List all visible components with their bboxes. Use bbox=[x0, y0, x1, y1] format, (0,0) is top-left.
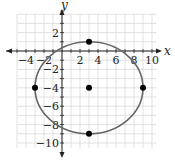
point-center bbox=[86, 85, 92, 91]
x-tick-label: 10 bbox=[145, 54, 159, 67]
y-axis-label: y bbox=[60, 0, 68, 12]
x-tick-label: 2 bbox=[77, 54, 84, 67]
x-tick-label: −4 bbox=[18, 54, 34, 67]
axes bbox=[6, 9, 162, 158]
x-axis-right-arrow-icon bbox=[156, 49, 162, 54]
grid-lines bbox=[17, 14, 157, 147]
x-axis-left-arrow-icon bbox=[6, 49, 12, 54]
y-tick-label: 2 bbox=[52, 27, 59, 40]
x-axis-label: x bbox=[164, 44, 171, 58]
y-tick-label: −2 bbox=[43, 63, 59, 76]
point-top-vertex bbox=[86, 39, 92, 45]
x-tick-label: 4 bbox=[95, 54, 102, 67]
coordinate-plot: −4−22468102−2−4−6−8−10 x y bbox=[0, 0, 175, 162]
point-bottom-vertex bbox=[86, 131, 92, 137]
point-left-vertex bbox=[32, 85, 38, 91]
y-tick-label: −6 bbox=[43, 100, 59, 113]
y-tick-label: −4 bbox=[43, 82, 59, 95]
point-right-vertex bbox=[140, 85, 146, 91]
y-axis-down-arrow-icon bbox=[60, 152, 65, 158]
x-tick-label: 6 bbox=[113, 54, 120, 67]
y-tick-label: −10 bbox=[36, 137, 59, 150]
